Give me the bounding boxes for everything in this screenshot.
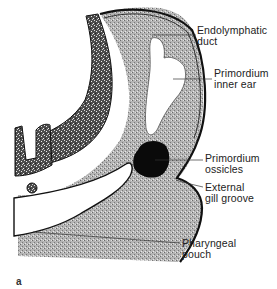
embryo-ear-diagram: Endolymphatic duct Primordium inner ear … xyxy=(0,0,277,289)
label-pharyngeal-pouch: Pharyngeal pouch xyxy=(182,238,236,260)
label-line: ossicles xyxy=(205,164,260,175)
label-primordium-inner-ear: Primordium inner ear xyxy=(214,68,269,90)
label-line: inner ear xyxy=(214,79,269,90)
label-external-gill-groove: External gill groove xyxy=(205,182,254,204)
label-line: duct xyxy=(197,36,267,47)
label-line: pouch xyxy=(182,249,236,260)
panel-letter: a xyxy=(16,276,22,287)
label-primordium-ossicles: Primordium ossicles xyxy=(205,153,260,175)
label-line: gill groove xyxy=(205,193,254,204)
blood-vessel xyxy=(27,183,37,193)
label-endolymphatic-duct: Endolymphatic duct xyxy=(197,25,267,47)
neural-tube-floor xyxy=(15,124,52,176)
